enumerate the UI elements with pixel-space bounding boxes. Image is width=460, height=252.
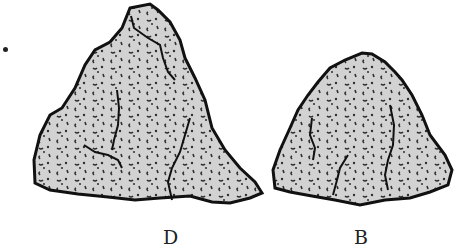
rock-d bbox=[34, 4, 262, 203]
rock-label-b: B bbox=[354, 226, 368, 248]
rock-label-d: D bbox=[163, 226, 178, 248]
rock-b bbox=[273, 53, 452, 205]
rock-illustration bbox=[0, 0, 460, 252]
